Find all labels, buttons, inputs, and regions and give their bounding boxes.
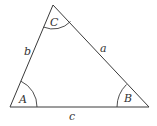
- vertex-label-B: B: [123, 92, 132, 105]
- side-label-b: b: [24, 45, 31, 58]
- side-label-c: c: [69, 110, 75, 123]
- triangle-diagram: C A B b a c: [0, 0, 157, 126]
- vertex-label-C: C: [50, 16, 59, 29]
- vertex-label-A: A: [18, 93, 27, 106]
- side-label-a: a: [100, 42, 107, 55]
